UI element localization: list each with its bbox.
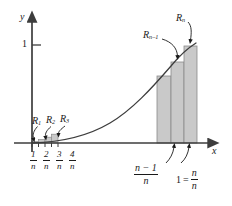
rectangles-right-group — [157, 46, 197, 143]
x-tick-label-2-over-n-num: 2 — [43, 150, 50, 160]
leader-arrow-R3 — [59, 126, 66, 134]
x-tick-label-1-over-n: 1 n — [30, 150, 37, 171]
leader-arrows-bottom — [166, 147, 189, 163]
leader-arrow-one-equals-n-over-n — [181, 147, 189, 163]
rect-label-Rn-sub: n — [182, 16, 185, 23]
leader-arrow-Rn — [188, 22, 191, 40]
rect-label-R3-sub: 3 — [66, 117, 69, 124]
leader-arrow-R1 — [33, 127, 37, 139]
x-tick-label-4-over-n: 4 n — [69, 150, 76, 171]
y-axis-tick-label-1: 1 — [22, 39, 27, 49]
x-tick-label-1-over-n-den: n — [30, 160, 37, 171]
rect-label-R2-sub: 2 — [52, 118, 55, 125]
x-tick-label-3-over-n-den: n — [56, 160, 63, 171]
rect-label-R2: R2 — [46, 115, 55, 126]
y-axis-label: y — [20, 12, 24, 22]
leader-arrow-Rn-1 — [162, 39, 178, 56]
riemann-sum-figure: y x 1 R1 R2 R3 Rn–1 Rn 1 n 2 n 3 n 4 n n… — [0, 0, 232, 206]
x-tick-label-4-over-n-den: n — [69, 160, 76, 171]
x-tick-label-2-over-n: 2 n — [43, 150, 50, 171]
n-over-n-fraction: n n — [191, 168, 198, 191]
leader-arrow-R2 — [45, 127, 51, 137]
rect-label-R1: R1 — [32, 116, 41, 127]
rect-label-Rn: Rn — [176, 13, 185, 24]
rect-label-R3: R3 — [60, 114, 69, 125]
equals-sign: = — [183, 175, 189, 185]
one-literal: 1 — [176, 175, 181, 185]
leader-arrows-left — [33, 126, 65, 139]
rect-label-Rn-minus-1-sub: n–1 — [149, 33, 158, 40]
x-tick-label-1-over-n-num: 1 — [30, 150, 37, 160]
rect-label-Rn-minus-1: Rn–1 — [143, 30, 158, 41]
x-tick-label-n-minus-1-over-n-num: n − 1 — [134, 163, 158, 174]
rect-Rn-2 — [157, 76, 171, 143]
x-tick-label-3-over-n: 3 n — [56, 150, 63, 171]
x-axis-label: x — [212, 146, 216, 156]
rect-Rn-1 — [171, 62, 184, 143]
x-tick-label-4-over-n-num: 4 — [69, 150, 76, 160]
n-over-n-den: n — [191, 179, 198, 191]
x-tick-label-3-over-n-num: 3 — [56, 150, 63, 160]
x-tick-label-one-equals-n-over-n: 1 = n n — [176, 168, 198, 191]
n-over-n-num: n — [191, 168, 198, 179]
leader-arrow-n-minus-1-over-n — [166, 147, 174, 163]
x-tick-label-n-minus-1-over-n: n − 1 n — [134, 163, 158, 186]
rect-Rn — [184, 46, 197, 143]
x-tick-label-n-minus-1-over-n-den: n — [134, 174, 158, 186]
rect-label-R1-sub: 1 — [38, 119, 41, 126]
x-tick-label-2-over-n-den: n — [43, 160, 50, 171]
